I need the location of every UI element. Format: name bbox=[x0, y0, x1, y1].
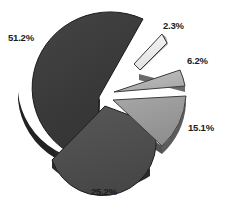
slice-2-3-face bbox=[134, 34, 167, 70]
pie-label-6-2: 6.2% bbox=[187, 56, 208, 66]
pie-chart: 51.2% 2.3% 6.2% 15.1% 25.2% bbox=[0, 0, 226, 207]
pie-label-25-2: 25.2% bbox=[91, 187, 117, 197]
pie-label-2-3: 2.3% bbox=[163, 21, 184, 31]
pie-label-15-1: 15.1% bbox=[188, 123, 214, 133]
pie-label-51-2: 51.2% bbox=[8, 33, 34, 43]
